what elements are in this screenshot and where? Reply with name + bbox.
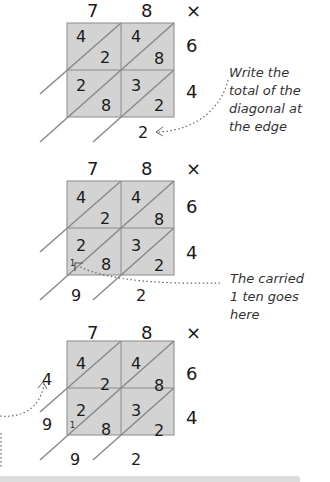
result-digit-tens: 9 <box>70 452 80 468</box>
cell-tens: 4 <box>131 190 141 206</box>
cell-tens: 4 <box>131 356 141 372</box>
cell-tens: 2 <box>76 78 86 94</box>
cell-tens: 4 <box>76 190 86 206</box>
multiply-sign: × <box>186 2 201 20</box>
lattice-grid <box>0 318 330 476</box>
cell-ones: 8 <box>154 378 164 394</box>
result-digit-ones: 2 <box>138 125 148 141</box>
cell-tens: 3 <box>131 78 141 94</box>
cell-ones: 8 <box>154 51 164 67</box>
lattice-step-2: 7 8 × 6 4 4 2 4 8 2 8 3 2 1 9 2 The carr… <box>0 158 330 316</box>
top-digit-7: 7 <box>87 2 98 20</box>
cell-ones: 8 <box>101 422 111 438</box>
bottom-divider-bar <box>0 476 300 482</box>
cell-ones: 2 <box>100 377 110 393</box>
top-digit-8: 8 <box>141 324 152 342</box>
cell-tens: 3 <box>131 238 141 254</box>
top-digit-7: 7 <box>87 160 98 178</box>
result-digit-hundreds: 9 <box>42 417 52 433</box>
carry-digit: 1 <box>70 422 75 430</box>
cell-tens: 2 <box>76 403 86 419</box>
cell-ones: 2 <box>154 423 164 439</box>
top-digit-8: 8 <box>141 160 152 178</box>
cell-ones: 8 <box>101 98 111 114</box>
lattice-step-1: 7 8 × 6 4 4 2 4 8 2 8 3 2 2 Write the to… <box>0 0 330 158</box>
side-digit-6: 6 <box>186 37 197 55</box>
side-digit-4: 4 <box>186 244 197 262</box>
multiply-sign: × <box>186 324 201 342</box>
side-digit-6: 6 <box>186 365 197 383</box>
annotation-note: Write the total of the diagonal at the e… <box>229 64 302 136</box>
result-digit-tens: 9 <box>71 288 81 304</box>
side-digit-6: 6 <box>186 198 197 216</box>
result-digit-ones: 2 <box>136 288 146 304</box>
cell-ones: 2 <box>154 98 164 114</box>
cell-tens: 3 <box>131 403 141 419</box>
side-digit-4: 4 <box>186 83 197 101</box>
cell-ones: 2 <box>154 258 164 274</box>
cell-ones: 2 <box>100 211 110 227</box>
top-digit-8: 8 <box>141 2 152 20</box>
cell-ones: 8 <box>101 257 111 273</box>
multiply-sign: × <box>186 160 201 178</box>
lattice-step-3: 7 8 × 6 4 4 2 4 8 2 8 3 2 1 4 9 9 2 <box>0 318 330 476</box>
annotation-note: The carried 1 ten goes here <box>230 270 330 324</box>
cell-tens: 4 <box>131 29 141 45</box>
cell-tens: 4 <box>76 29 86 45</box>
cell-ones: 8 <box>154 212 164 228</box>
cell-tens: 2 <box>76 238 86 254</box>
cell-ones: 2 <box>100 50 110 66</box>
result-digit-ones: 2 <box>131 452 141 468</box>
carry-digit: 1 <box>70 260 75 268</box>
top-digit-7: 7 <box>87 324 98 342</box>
side-digit-4: 4 <box>186 409 197 427</box>
cell-tens: 4 <box>76 356 86 372</box>
result-digit-thousands: 4 <box>42 372 52 388</box>
